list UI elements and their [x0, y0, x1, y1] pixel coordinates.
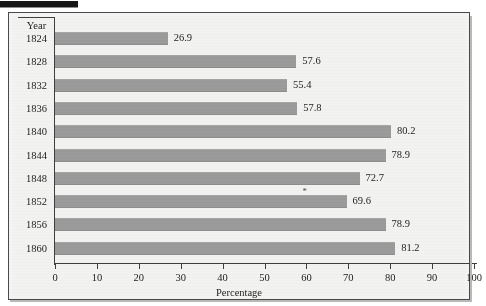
bar — [55, 102, 297, 115]
x-axis-tick-label: 70 — [333, 271, 363, 284]
x-axis-tick — [181, 264, 182, 269]
bar — [55, 172, 360, 185]
x-axis-title: Percentage — [13, 286, 465, 300]
year-tick-label: 1848 — [18, 172, 55, 185]
x-axis-tick — [390, 264, 391, 269]
bar-value-label: 80.2 — [397, 124, 415, 138]
bar — [55, 79, 287, 92]
bar-value-label: 26.9 — [174, 31, 192, 45]
plot-panel: Year 18241828183218361840184418481852185… — [13, 17, 465, 295]
x-axis-tick — [139, 264, 140, 269]
year-tick-label: 1840 — [18, 125, 55, 138]
asterisk-annotation: * — [303, 187, 308, 196]
x-axis-tick-label: 50 — [250, 271, 280, 284]
x-axis-tick — [306, 264, 307, 269]
x-axis-tick — [265, 264, 266, 269]
bar-value-label: 78.9 — [392, 217, 410, 231]
bar — [55, 55, 296, 68]
x-axis-tick — [223, 264, 224, 269]
year-tick-label: 1852 — [18, 195, 55, 208]
bar — [55, 195, 347, 208]
bar — [55, 149, 386, 162]
bar — [55, 218, 386, 231]
year-tick-label: 1860 — [18, 242, 55, 255]
year-axis-header: Year — [18, 19, 55, 33]
x-axis-tick-label: 60 — [291, 271, 321, 284]
x-axis-tick-label: 80 — [375, 271, 405, 284]
bar-value-label: 72.7 — [366, 171, 384, 185]
bar-value-label: 78.9 — [392, 148, 410, 162]
x-axis-tick — [432, 264, 433, 269]
x-axis-tick-label: 0 — [40, 271, 70, 284]
figure-frame: Year 18241828183218361840184418481852185… — [8, 12, 470, 300]
bar — [55, 125, 391, 138]
bar-value-label: 81.2 — [401, 241, 419, 255]
x-axis-tick — [474, 264, 475, 269]
x-axis-tick-label: 90 — [417, 271, 447, 284]
bar-value-label: 57.8 — [303, 101, 321, 115]
x-axis-tick-label: 100 — [459, 271, 486, 284]
x-axis-tick — [348, 264, 349, 269]
year-tick-label: 1824 — [18, 32, 55, 45]
x-axis-tick — [97, 264, 98, 269]
year-tick-label: 1844 — [18, 149, 55, 162]
bars-area: 26.957.655.457.880.278.972.769.678.981.2… — [55, 17, 465, 295]
scan-artifact-shadow — [0, 7, 78, 8]
bar — [55, 32, 168, 45]
bar-value-label: 69.6 — [353, 194, 371, 208]
x-axis-tick-label: 10 — [82, 271, 112, 284]
bar-value-label: 55.4 — [293, 78, 311, 92]
x-axis-line — [55, 263, 477, 264]
x-axis-tick — [55, 264, 56, 269]
x-axis-tick-label: 40 — [208, 271, 238, 284]
x-axis-tick-label: 30 — [166, 271, 196, 284]
year-tick-label: 1828 — [18, 55, 55, 68]
year-tick-label: 1856 — [18, 218, 55, 231]
year-tick-label: 1836 — [18, 102, 55, 115]
year-tick-label: 1832 — [18, 79, 55, 92]
x-axis-tick-label: 20 — [124, 271, 154, 284]
bar — [55, 242, 395, 255]
bar-value-label: 57.6 — [302, 54, 320, 68]
